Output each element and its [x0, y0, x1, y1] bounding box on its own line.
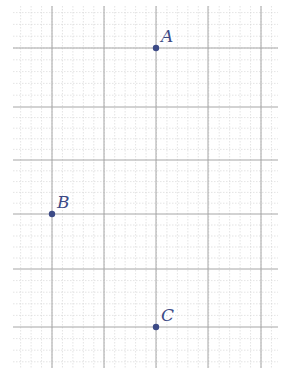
- point-c-dot: [153, 324, 159, 330]
- point-a-dot: [153, 45, 159, 51]
- major-grid-lines: [13, 6, 278, 368]
- minor-grid-lines: [13, 6, 278, 368]
- point-a-label: A: [159, 26, 173, 46]
- point-c-label: C: [161, 305, 174, 325]
- grid-diagram: A B C: [0, 0, 283, 374]
- point-b-label: B: [56, 192, 70, 212]
- point-b-dot: [49, 211, 55, 217]
